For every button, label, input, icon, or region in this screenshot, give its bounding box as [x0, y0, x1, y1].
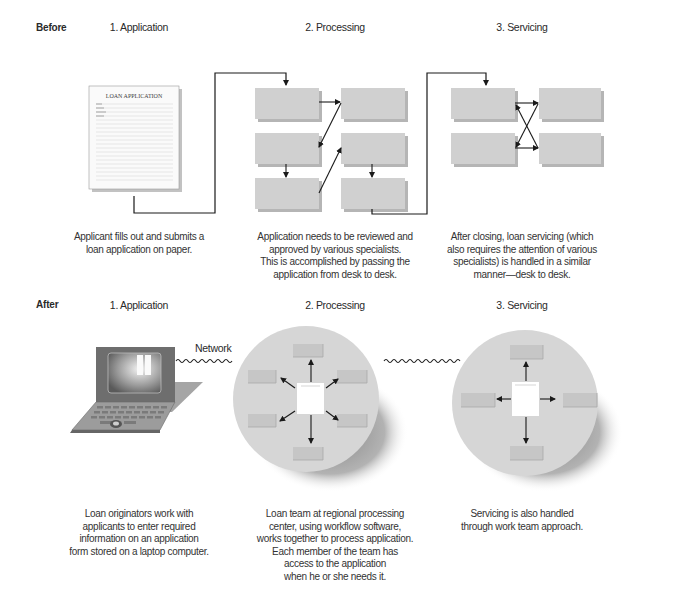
after-caption-application: Loan originators work with applicants to… — [69, 508, 209, 558]
before-caption-processing: Application needs to be reviewed and app… — [257, 231, 412, 281]
network-link-1 — [176, 360, 232, 363]
network-link-2 — [384, 360, 460, 363]
servicing-team-circle — [452, 330, 623, 492]
before-caption-servicing: After closing, loan servicing (which als… — [447, 231, 597, 281]
processing-desks — [255, 88, 408, 212]
laptop-computer-icon — [70, 347, 203, 433]
document-title: LOAN APPLICATION — [106, 93, 163, 99]
network-label: Network — [195, 342, 231, 354]
before-caption-application: Applicant fills out and submits a loan a… — [74, 231, 204, 256]
processing-team-circle — [233, 326, 408, 492]
after-caption-servicing: Servicing is also handled through work t… — [461, 508, 583, 533]
paper-loan-application-icon: LOAN APPLICATION — [89, 86, 182, 192]
after-caption-processing: Loan team at regional processing center,… — [257, 508, 413, 583]
workflow-diagram: LOAN APPLICATION — [0, 0, 680, 592]
